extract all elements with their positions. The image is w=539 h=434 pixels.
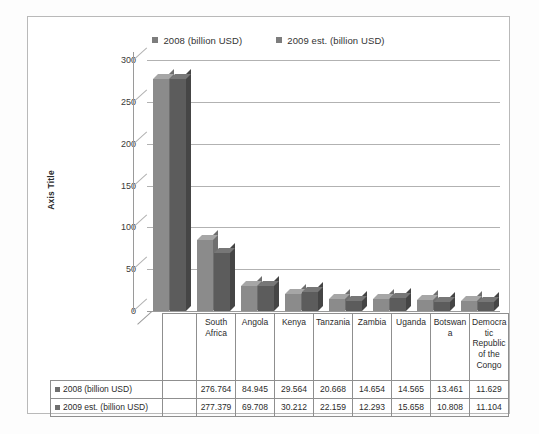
plot-area: 300250200150100500 (100, 52, 500, 312)
series-swatch-icon (55, 387, 60, 392)
table-category-cell: SouthAfrica (197, 314, 236, 381)
y-tick-label: 50 (100, 264, 136, 274)
bar-series-2009[interactable] (390, 298, 406, 311)
legend-item-2008[interactable]: 2008 (billion USD) (152, 35, 242, 46)
bar-group[interactable] (235, 52, 279, 311)
y-axis-ticks: 300250200150100500 (100, 52, 140, 312)
bar-series-2009[interactable] (170, 79, 186, 311)
bar-face (434, 302, 450, 311)
series-swatch-icon (55, 405, 60, 410)
table-spacer-cell (163, 314, 197, 381)
bar-series-2009[interactable] (346, 301, 362, 311)
table-row: 2008 (billion USD)276.76484.94529.56420.… (51, 381, 509, 399)
table-value-cell: 15.658 (392, 399, 431, 417)
table-category-cell: DemocraticRepublicof theCongo (470, 314, 509, 381)
bar-series-2008[interactable] (461, 301, 477, 311)
y-axis-line (133, 52, 134, 312)
bar-face (302, 292, 318, 311)
table-value-cell: 20.668 (314, 381, 353, 399)
bar-group[interactable] (412, 52, 456, 311)
table-value-cell: 69.708 (236, 399, 275, 417)
table-value-cell: 14.565 (392, 381, 431, 399)
y-tick-label: 200 (100, 139, 136, 149)
bar-group[interactable] (147, 52, 191, 311)
table-category-cell: Tanzania (314, 314, 353, 381)
table-value-cell: 84.945 (236, 381, 275, 399)
bar-face (461, 301, 477, 311)
bar-face (258, 286, 274, 311)
bar-series-container (147, 52, 500, 311)
table-corner-cell (51, 314, 163, 381)
chart-data-table: SouthAfricaAngolaKenyaTanzaniaZambiaUgan… (50, 313, 509, 417)
table-value-cell: 30.212 (275, 399, 314, 417)
bar-series-2009[interactable] (434, 302, 450, 311)
table-value-cell: 276.764 (197, 381, 236, 399)
legend-item-2009[interactable]: 2009 est. (billion USD) (276, 35, 384, 46)
bar-series-2008[interactable] (153, 79, 169, 311)
bar-series-2008[interactable] (285, 294, 301, 311)
table-value-cell: 14.654 (353, 381, 392, 399)
y-tick-label: 100 (100, 222, 136, 232)
bar-side (494, 292, 499, 311)
table-value-cell: 22.159 (314, 399, 353, 417)
legend-label-2008: 2008 (billion USD) (163, 35, 242, 46)
table-value-cell: 13.461 (431, 381, 470, 399)
bar-series-2008[interactable] (373, 299, 389, 311)
bar-face (346, 301, 362, 311)
y-tick-label: 250 (100, 97, 136, 107)
bar-side (230, 243, 235, 311)
bar-side (406, 288, 411, 311)
bar-series-2009[interactable] (214, 253, 230, 311)
bar-series-2009[interactable] (302, 292, 318, 311)
bar-face (285, 294, 301, 311)
bar-group[interactable] (368, 52, 412, 311)
chart-legend: 2008 (billion USD) 2009 est. (billion US… (27, 30, 510, 50)
bar-face (478, 302, 494, 311)
bar-group[interactable] (324, 52, 368, 311)
bar-group[interactable] (279, 52, 323, 311)
table-spacer-cell (163, 399, 197, 417)
table-value-cell: 29.564 (275, 381, 314, 399)
table-value-cell: 12.293 (353, 399, 392, 417)
table-spacer-cell (163, 381, 197, 399)
table-category-cell: Angola (236, 314, 275, 381)
table-series-label: 2009 est. (billion USD) (51, 399, 163, 417)
bar-face (329, 299, 345, 311)
bar-series-2008[interactable] (417, 300, 433, 311)
bar-series-2008[interactable] (197, 240, 213, 311)
table-category-cell: Botswana (431, 314, 470, 381)
bar-series-2009[interactable] (258, 286, 274, 311)
bar-series-2008[interactable] (241, 286, 257, 311)
bar-face (153, 79, 169, 311)
legend-swatch-icon (152, 37, 158, 43)
bar-group[interactable] (191, 52, 235, 311)
table-series-label: 2008 (billion USD) (51, 381, 163, 399)
table-value-cell: 277.379 (197, 399, 236, 417)
table-category-cell: Kenya (275, 314, 314, 381)
table-value-cell: 11.104 (470, 399, 509, 417)
y-axis-title-text: Axis Title (46, 170, 56, 210)
bar-face (390, 298, 406, 311)
table-row: 2009 est. (billion USD)277.37969.70830.2… (51, 399, 509, 417)
chart-screenshot: 2008 (billion USD) 2009 est. (billion US… (0, 0, 539, 434)
table-category-cell: Zambia (353, 314, 392, 381)
bar-face (417, 300, 433, 311)
legend-label-2009: 2009 est. (billion USD) (287, 35, 384, 46)
bar-face (197, 240, 213, 311)
y-tick-label: 150 (100, 181, 136, 191)
bar-series-2009[interactable] (478, 302, 494, 311)
bar-side (186, 69, 191, 311)
bar-side (362, 291, 367, 311)
table-value-cell: 10.808 (431, 399, 470, 417)
table-category-row: SouthAfricaAngolaKenyaTanzaniaZambiaUgan… (51, 314, 509, 381)
bar-face (214, 253, 230, 311)
floor-front-edge (147, 311, 500, 312)
table-value-cell: 11.629 (470, 381, 509, 399)
bar-face (170, 79, 186, 311)
bar-series-2008[interactable] (329, 299, 345, 311)
bar-face (373, 299, 389, 311)
bar-face (241, 286, 257, 311)
y-axis-title: Axis Title (44, 150, 58, 230)
table-category-cell: Uganda (392, 314, 431, 381)
bar-group[interactable] (456, 52, 500, 311)
